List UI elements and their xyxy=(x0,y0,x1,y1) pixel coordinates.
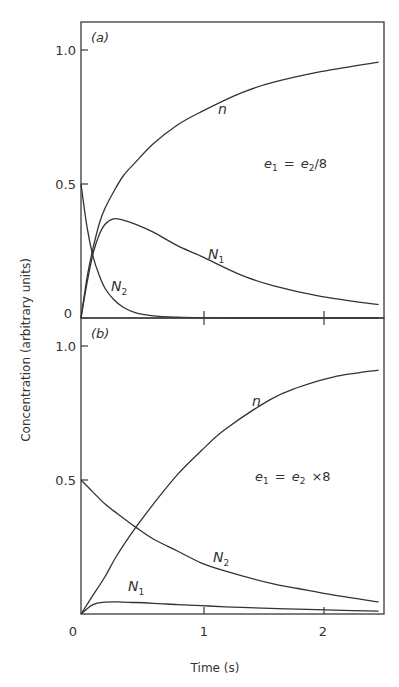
xtick-label-0: 0 xyxy=(69,624,77,639)
figure: 1.0 0.5 0 (a) n N1 N2 e1=e2/8 1.0 0.5 (b… xyxy=(0,0,399,687)
equation-b: e1=e2×8 xyxy=(255,469,331,486)
label-a-n: n xyxy=(218,101,227,117)
ytick-label-b-1: 1.0 xyxy=(55,339,76,354)
panel-label-a: (a) xyxy=(91,30,109,45)
ytick-label-b-05: 0.5 xyxy=(55,473,76,488)
curve-b-n xyxy=(81,370,379,614)
ytick-label-a-0: 0 xyxy=(64,306,72,321)
curve-b-N1 xyxy=(81,602,379,614)
label-b-N2: N2 xyxy=(213,549,229,568)
panel-label-b: (b) xyxy=(91,326,109,341)
y-axis-title: Concentration (arbitrary units) xyxy=(19,258,33,442)
equation-a: e1=e2/8 xyxy=(264,156,327,173)
label-a-N2: N2 xyxy=(111,278,127,297)
label-b-N1: N1 xyxy=(128,578,144,597)
label-b-n: n xyxy=(252,393,261,409)
label-a-N1: N1 xyxy=(208,246,224,265)
ytick-label-a-1: 1.0 xyxy=(55,43,76,58)
panel-a: 1.0 0.5 0 (a) n N1 N2 e1=e2/8 xyxy=(55,22,384,325)
panel-b-frame xyxy=(81,318,384,614)
xtick-label-1: 1 xyxy=(200,624,208,639)
curve-a-N1 xyxy=(81,219,379,318)
curve-a-n xyxy=(81,62,379,318)
panel-a-frame xyxy=(81,22,384,318)
panel-b: 1.0 0.5 (b) n N1 N2 e1=e2×8 xyxy=(55,318,384,614)
xtick-label-2: 2 xyxy=(319,624,327,639)
x-axis-title: Time (s) xyxy=(190,661,240,675)
ytick-label-a-05: 0.5 xyxy=(55,177,76,192)
